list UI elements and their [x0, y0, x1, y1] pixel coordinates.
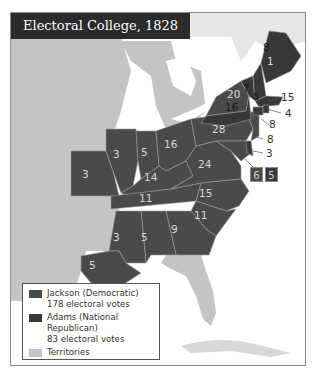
- label-tennessee: 11: [139, 192, 152, 204]
- adams-swatch: [29, 314, 42, 322]
- territories-swatch: [29, 349, 42, 357]
- label-rhode-island: 4: [285, 107, 292, 119]
- legend-territories-label: Territories: [47, 347, 90, 358]
- legend-jackson-label: Jackson (Democratic): [47, 288, 139, 298]
- label-louisiana: 5: [89, 259, 96, 271]
- label-maine-jackson: 1: [267, 55, 274, 67]
- label-maryland-jackson: 6: [250, 167, 263, 182]
- legend-item-jackson: Jackson (Democratic) 178 electoral votes: [29, 288, 153, 310]
- label-south-carolina: 11: [194, 209, 207, 221]
- legend-adams-votes: 83 electoral votes: [47, 334, 124, 344]
- label-new-york-jackson: 20: [227, 88, 240, 100]
- label-vermont: 7: [243, 82, 250, 94]
- legend-item-territories: Territories: [29, 347, 153, 358]
- label-kentucky: 14: [144, 171, 158, 183]
- label-connecticut: 8: [269, 118, 276, 130]
- label-new-york-adams: 16: [225, 101, 239, 113]
- label-indiana: 5: [141, 146, 148, 158]
- label-mississippi: 3: [113, 231, 120, 243]
- label-missouri: 3: [82, 168, 89, 180]
- legend-item-adams: Adams (National Republican) 83 electoral…: [29, 312, 153, 345]
- legend-adams-label: Adams (National Republican): [47, 312, 118, 333]
- label-new-jersey: 8: [267, 133, 274, 145]
- legend: Jackson (Democratic) 178 electoral votes…: [22, 283, 160, 360]
- label-maryland-adams: 5: [265, 167, 278, 182]
- jackson-swatch: [29, 290, 42, 298]
- label-virginia: 24: [198, 158, 212, 170]
- label-georgia: 9: [171, 223, 178, 235]
- state-connecticut: [253, 107, 263, 115]
- label-maine-adams: 8: [263, 41, 270, 53]
- label-north-carolina: 15: [199, 187, 212, 199]
- label-ohio: 16: [164, 138, 178, 150]
- legend-jackson-votes: 178 electoral votes: [47, 299, 130, 309]
- label-massachusetts: 15: [281, 91, 294, 103]
- map-title: Electoral College, 1828: [11, 13, 190, 39]
- label-new-hampshire: 8: [253, 90, 260, 102]
- label-alabama: 5: [141, 231, 148, 243]
- label-illinois: 3: [113, 148, 120, 160]
- label-delaware: 3: [266, 147, 273, 159]
- label-pennsylvania: 28: [212, 123, 225, 135]
